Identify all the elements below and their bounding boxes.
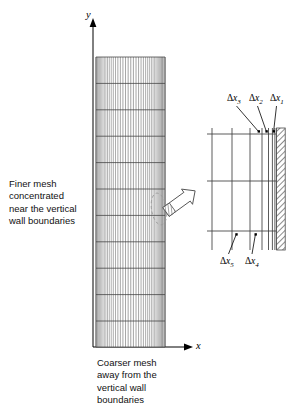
leader-line-dx2 bbox=[258, 106, 267, 132]
inset-top-leaders bbox=[237, 106, 277, 133]
subscript: 5 bbox=[230, 261, 234, 269]
inset-background bbox=[212, 133, 285, 245]
leader-dot-dx3 bbox=[258, 130, 260, 132]
subscript: 1 bbox=[280, 98, 284, 106]
subscript: 4 bbox=[255, 261, 259, 269]
y-axis-label: y bbox=[86, 9, 91, 20]
coarser-mesh-caption: Coarser mesh away from the vertical wall… bbox=[97, 357, 157, 407]
spacing-label-dx2: Δx2 bbox=[249, 93, 263, 106]
figure-canvas: y x Finer mesh concentrated near the ver… bbox=[0, 0, 297, 410]
subscript: 2 bbox=[259, 98, 263, 106]
x-axis-label: x bbox=[196, 340, 201, 351]
leader-line-dx3 bbox=[237, 106, 259, 132]
leader-dot-dx1 bbox=[273, 130, 275, 132]
spacing-label-dx5: Δx5 bbox=[220, 256, 234, 269]
spacing-label-dx4: Δx4 bbox=[245, 256, 259, 269]
inset-wall-hatch-band bbox=[277, 128, 286, 250]
finer-mesh-caption: Finer mesh concentrated near the vertica… bbox=[9, 178, 77, 228]
main-mesh-group bbox=[96, 57, 165, 347]
leader-dot-dx4 bbox=[255, 233, 257, 235]
leader-line-dx1 bbox=[274, 106, 277, 132]
leader-dot-dx5 bbox=[235, 233, 237, 235]
spacing-label-dx3: Δx3 bbox=[227, 93, 241, 106]
detail-inset-group bbox=[207, 128, 285, 250]
x-axis-arrowhead bbox=[184, 344, 193, 351]
subscript: 3 bbox=[237, 98, 241, 106]
spacing-label-dx1: Δx1 bbox=[270, 93, 284, 106]
leader-dot-dx2 bbox=[265, 130, 267, 132]
